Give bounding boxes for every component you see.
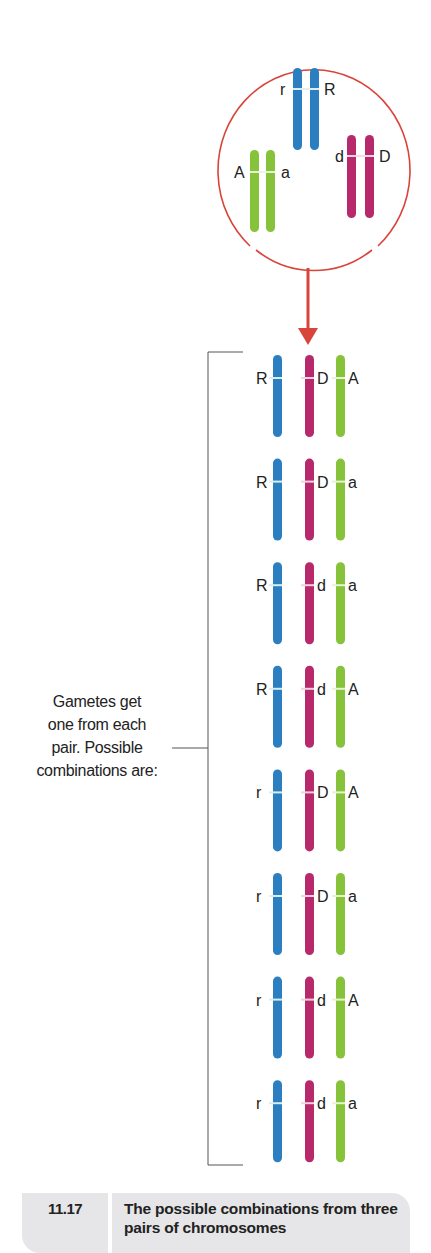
caption-text-box: The possible combinations from three pai…	[112, 1193, 410, 1253]
chromosome	[336, 459, 345, 541]
down-arrow-icon	[298, 268, 318, 345]
chromosome	[273, 1080, 282, 1162]
allele-label: R	[256, 474, 268, 491]
allele-label: a	[348, 1095, 357, 1112]
chromosome	[336, 666, 345, 748]
allele-label: a	[348, 888, 357, 905]
allele-label: d	[317, 992, 326, 1009]
allele-label: R	[324, 81, 336, 98]
allele-label: a	[348, 577, 357, 594]
chromosome	[273, 873, 282, 955]
chromosome	[305, 1080, 314, 1162]
allele-label: A	[348, 784, 359, 801]
allele-label: r	[256, 784, 262, 801]
allele-label: A	[348, 370, 359, 387]
allele-label: D	[317, 474, 329, 491]
side-label-line: one from each	[12, 713, 182, 736]
gamete-row: rdA	[256, 977, 359, 1059]
gamete-row: RDa	[256, 459, 357, 541]
chromosome	[336, 977, 345, 1059]
caption-number-box: 11.17	[22, 1193, 108, 1253]
allele-label: A	[348, 992, 359, 1009]
chromosome	[305, 977, 314, 1059]
gamete-row: rDa	[256, 873, 357, 955]
allele-label: d	[317, 1095, 326, 1112]
chromosome	[336, 355, 345, 437]
allele-label: r	[256, 888, 262, 905]
chromosome	[336, 1080, 345, 1162]
diagram-canvas: r R A a d D RDARDaRdaRdArDArDardArda	[0, 0, 431, 1253]
gamete-row: Rda	[256, 562, 357, 644]
allele-label: D	[317, 370, 329, 387]
allele-label: d	[317, 681, 326, 698]
chromosome	[273, 666, 282, 748]
allele-label: R	[256, 681, 268, 698]
chromosome	[305, 769, 314, 851]
bracket	[172, 352, 243, 1165]
allele-label: a	[281, 164, 290, 181]
chromosome	[305, 459, 314, 541]
side-label-line: pair. Possible	[12, 736, 182, 759]
side-label-line: combinations are:	[12, 759, 182, 782]
allele-label: r	[280, 81, 286, 98]
figure-caption: The possible combinations from three pai…	[124, 1199, 404, 1237]
allele-label: R	[256, 370, 268, 387]
gamete-row: RDA	[256, 355, 359, 437]
side-label-line: Gametes get	[12, 690, 182, 713]
allele-label: d	[335, 148, 344, 165]
chromosome	[273, 459, 282, 541]
chromosome	[273, 562, 282, 644]
allele-label: A	[234, 164, 245, 181]
gamete-row: rDA	[256, 769, 359, 851]
chromosome	[305, 562, 314, 644]
allele-label: D	[379, 148, 391, 165]
gamete-row: rda	[256, 1080, 357, 1162]
chromosome	[305, 355, 314, 437]
gamete-row: RdA	[256, 666, 359, 748]
allele-label: a	[348, 474, 357, 491]
chromosome-pair-r: r R	[280, 68, 336, 150]
chromosome	[273, 977, 282, 1059]
figure-number: 11.17	[22, 1200, 108, 1217]
chromosome	[305, 873, 314, 955]
chromosome	[273, 769, 282, 851]
allele-label: d	[317, 577, 326, 594]
side-label: Gametes get one from each pair. Possible…	[12, 690, 182, 782]
allele-label: r	[256, 992, 262, 1009]
allele-label: D	[317, 784, 329, 801]
allele-label: R	[256, 577, 268, 594]
chromosome	[336, 562, 345, 644]
chromosome-pair-a: A a	[234, 150, 290, 232]
allele-label: A	[348, 681, 359, 698]
chromosome-pair-d: d D	[335, 135, 391, 218]
allele-label: D	[317, 888, 329, 905]
allele-label: r	[256, 1095, 262, 1112]
chromosome	[336, 873, 345, 955]
chromosome	[305, 666, 314, 748]
chromosome	[273, 355, 282, 437]
gametes-list: RDARDaRdaRdArDArDardArda	[256, 355, 359, 1162]
chromosome	[336, 769, 345, 851]
